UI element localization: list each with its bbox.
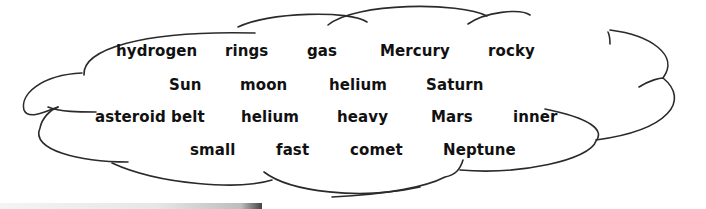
word-asteroid-belt: asteroid belt bbox=[95, 108, 205, 126]
word-rings: rings bbox=[225, 42, 268, 60]
word-inner: inner bbox=[513, 108, 558, 126]
bottom-edge-bar bbox=[0, 203, 262, 209]
cloud-outline bbox=[0, 0, 706, 209]
word-helium: helium bbox=[329, 76, 387, 94]
word-fast: fast bbox=[276, 141, 309, 159]
word-mars: Mars bbox=[431, 108, 473, 126]
word-mercury: Mercury bbox=[380, 42, 450, 60]
word-small: small bbox=[190, 141, 235, 159]
word-comet: comet bbox=[350, 141, 403, 159]
word-saturn: Saturn bbox=[426, 76, 483, 94]
word-hydrogen: hydrogen bbox=[116, 42, 197, 60]
word-helium-2: helium bbox=[241, 108, 299, 126]
word-moon: moon bbox=[240, 76, 287, 94]
word-rocky: rocky bbox=[488, 42, 535, 60]
word-neptune: Neptune bbox=[443, 141, 516, 159]
word-sun: Sun bbox=[169, 76, 201, 94]
word-heavy: heavy bbox=[337, 108, 388, 126]
word-gas: gas bbox=[307, 42, 337, 60]
